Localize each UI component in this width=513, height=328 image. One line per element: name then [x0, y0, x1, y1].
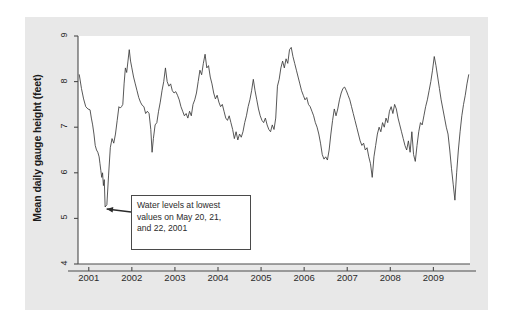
x-tick-label: 2009	[413, 272, 453, 283]
y-axis-title: Mean daily gauge height (feet)	[31, 48, 43, 248]
x-tick-label: 2003	[155, 272, 195, 283]
y-tick-label: 5	[59, 209, 69, 225]
annotation-line: values on May 20, 21,	[137, 212, 245, 224]
annotation-callout-box: Water levels at lowestvalues on May 20, …	[131, 195, 251, 250]
annotation-callout-text: Water levels at lowestvalues on May 20, …	[137, 200, 245, 235]
figure-root: Mean daily gauge height (feet) 456789 20…	[0, 0, 513, 328]
y-tick-label: 6	[59, 164, 69, 180]
x-tick-label: 2008	[370, 272, 410, 283]
data-series-line	[79, 47, 468, 207]
y-tick-label: 8	[59, 73, 69, 89]
y-tick-label: 9	[59, 27, 69, 43]
x-tick-label: 2001	[69, 272, 109, 283]
y-tick-label: 7	[59, 118, 69, 134]
annotation-line: and 22, 2001	[137, 223, 245, 235]
axes-group	[68, 36, 476, 271]
x-tick-label: 2006	[284, 272, 324, 283]
annotation-arrow	[107, 207, 131, 213]
x-tick-label: 2005	[241, 272, 281, 283]
x-tick-label: 2004	[198, 272, 238, 283]
series-line-0	[79, 47, 468, 207]
x-tick-label: 2007	[327, 272, 367, 283]
y-tick-label: 4	[59, 255, 69, 271]
annotation-line: Water levels at lowest	[137, 200, 245, 212]
x-tick-label: 2002	[112, 272, 152, 283]
